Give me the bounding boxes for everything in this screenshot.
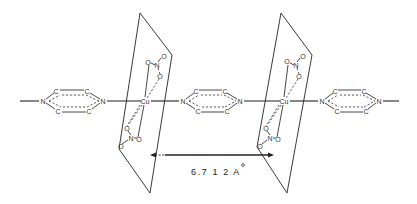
distance-value: 6.7 1 2 A [191,167,241,177]
atom-o: O [284,58,290,65]
atom-c: C [53,88,58,95]
atom-c: C [193,88,198,95]
coordination-plane-2: O N O O Cu O N O O [257,13,312,193]
atom-c: C [224,108,229,115]
atom-o: O [263,125,269,132]
atom-c: C [222,88,227,95]
pyrazine-ring-1: N C C C C N [40,88,105,115]
atom-cu: Cu [141,98,150,105]
distance-arrow [150,153,274,158]
atom-c: C [334,108,339,115]
atom-c: C [361,88,366,95]
atom-n: N [293,62,298,69]
atom-o: O [136,136,142,143]
atom-n: N [180,98,185,105]
angstrom-ring-icon [242,164,245,167]
atom-o: O [275,136,281,143]
atom-o: O [145,59,151,66]
atom-o: O [300,53,306,60]
distance-label: 6.7 1 2 A [191,164,244,177]
atom-o: O [157,73,163,80]
atom-c: C [332,88,337,95]
atom-n: N [40,98,45,105]
coordination-plane-1: O N O O Cu O N O O [118,13,172,193]
atom-c: C [195,108,200,115]
atom-o: O [161,53,167,60]
atom-n: N [267,135,272,142]
atom-n: N [100,98,105,105]
atom-n: N [376,98,381,105]
atom-n: N [237,98,242,105]
pyrazine-ring-3: N C C C C N [319,88,381,115]
atom-n: N [154,62,159,69]
atom-n: N [128,135,133,142]
atom-n: N [319,98,324,105]
pyrazine-ring-2: N C C C C N [180,88,242,115]
atom-o: O [118,143,124,150]
arrowhead-left-icon [150,153,156,158]
atom-o: O [257,143,263,150]
atom-o: O [124,125,130,132]
atom-c: C [86,108,91,115]
arrowhead-right-icon [268,153,274,158]
atom-c: C [363,108,368,115]
pyrazine-copper-chain-diagram: N C C C C N O N O O Cu O N O O [0,0,417,204]
atom-o: O [296,73,302,80]
atom-c: C [55,108,60,115]
atom-cu: Cu [280,98,289,105]
atom-c: C [84,88,89,95]
